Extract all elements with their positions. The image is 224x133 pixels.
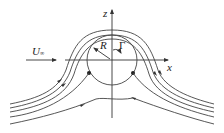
streamline-4b	[133, 73, 214, 117]
x-axis-label: x	[167, 62, 172, 73]
flow-diagram	[0, 0, 224, 133]
circulation-label: Γ	[119, 40, 125, 51]
freestream-subscript: ∞	[40, 50, 44, 56]
freestream-symbol: U	[32, 45, 40, 57]
flow-arrows	[57, 70, 162, 107]
freestream-label: U∞	[32, 46, 44, 57]
radius-label: R	[100, 40, 107, 51]
z-axis-label: z	[103, 8, 107, 19]
